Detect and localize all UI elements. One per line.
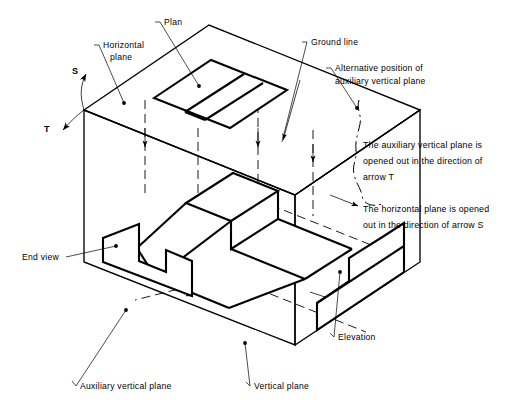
label-horizontal-plane-1: Horizontal (103, 40, 144, 50)
direction-arrows: S T (44, 66, 86, 134)
note-s-line2: out in the direction of arrow S (363, 220, 484, 230)
arrow-s-label: S (72, 66, 78, 76)
label-alternative-2: auxiliary vertical plane (335, 76, 426, 86)
arrow-t-label: T (44, 124, 50, 134)
leader-dot-vertical-plane (243, 341, 247, 345)
leader-elev-tick (330, 333, 334, 337)
label-alternative-1: Alternative position of (335, 63, 423, 73)
diagram-canvas: S T Plan (0, 0, 528, 416)
leader-auxiliary-plane (76, 310, 126, 386)
ground-line-edge (295, 110, 420, 195)
note-arrow-s: The horizontal plane is opened out in th… (363, 204, 489, 230)
note-s-line1: The horizontal plane is opened (363, 204, 489, 214)
note-arrow-t: The auxiliary vertical plane is opened o… (363, 140, 483, 182)
label-end-view: End view (22, 252, 59, 262)
plan-view (154, 60, 287, 128)
projector-arrow-h3 (330, 195, 358, 206)
leader-vertical-plane (245, 343, 250, 386)
leader-dot-plan (197, 84, 201, 88)
note-t-line3: arrow T (363, 172, 394, 182)
note-t-line1: The auxiliary vertical plane is (363, 140, 483, 150)
leader-dot-end-view (114, 244, 118, 248)
label-elevation: Elevation (338, 332, 376, 342)
label-horizontal-plane-2: plane (110, 52, 132, 62)
leader-dot-auxiliary-plane (124, 308, 128, 312)
leader-alternative (331, 68, 357, 108)
arrow-s-curve (81, 74, 86, 110)
note-t-line2: opened out in the direction of (363, 156, 483, 166)
arrow-t-curve (63, 110, 84, 130)
leader-aux-tick (72, 381, 76, 386)
elevation-view (317, 221, 404, 330)
label-auxiliary-vertical-plane: Auxiliary vertical plane (80, 381, 172, 391)
leader-dot-elevation (338, 270, 342, 274)
label-ground-line: Ground line (311, 37, 358, 47)
leader-dot-horizontal-plane (122, 101, 126, 105)
label-vertical-plane: Vertical plane (254, 381, 309, 391)
leader-dot-alternative (355, 106, 359, 110)
label-plan: Plan (164, 17, 182, 27)
